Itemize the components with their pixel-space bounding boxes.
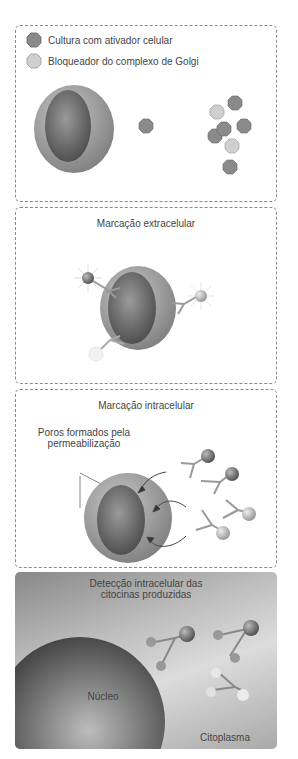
cell-icon [100, 266, 176, 350]
nucleus-label: Núcleo [73, 691, 133, 702]
activator-octagon [139, 119, 153, 133]
fluorophore-top-left [74, 264, 102, 292]
intracellular-illustration [16, 390, 278, 569]
cytoplasm-label: Citoplasma [190, 732, 260, 743]
panel-extracellular-staining: Marcação extracelular [15, 207, 277, 384]
panel-intracellular-staining: Marcação intracelular Poros formados pel… [15, 389, 277, 568]
octagon-cluster [208, 96, 251, 174]
panel-intracellular-detection: Detecção intracelular das citocinas prod… [15, 572, 277, 749]
extracellular-illustration [16, 208, 278, 385]
culture-illustration [16, 26, 278, 203]
panel-culture: Cultura com ativador celular Bloqueador … [15, 25, 277, 202]
cell-icon [34, 85, 114, 173]
detection-illustration [15, 572, 277, 749]
fluorophore-right [187, 282, 215, 310]
cell-icon [84, 473, 172, 563]
faint-fluorophore [89, 347, 103, 361]
